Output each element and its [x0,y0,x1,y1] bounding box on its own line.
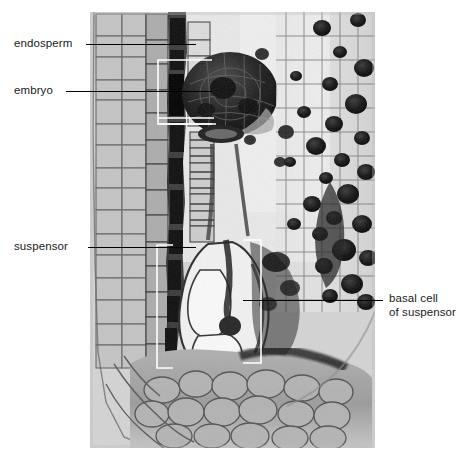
label-basal-cell-of-suspensor: basal cell of suspensor [389,292,456,319]
suspensor-leader-line [88,247,196,248]
basal-cell-leader-line [243,300,383,301]
label-basal-cell-line-2: of suspensor [389,306,456,320]
label-endosperm: endosperm [14,37,72,51]
micrograph-image [90,12,375,448]
embryo-leader-line [66,91,212,92]
figure-micrograph-seed-section: endosperm embryo suspensor basal cell of… [0,0,469,465]
label-suspensor: suspensor [14,240,68,254]
label-basal-cell-line-1: basal cell [389,292,456,306]
micrograph-plate [90,12,375,448]
endosperm-leader-line [86,44,196,45]
label-embryo: embryo [14,84,53,98]
